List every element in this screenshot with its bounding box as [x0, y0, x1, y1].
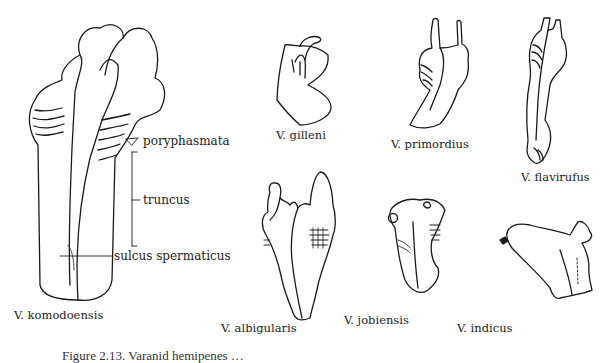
annotation-poryphasmata: poryphasmata [143, 135, 230, 147]
annotation-sulcus-spermaticus: sulcus spermaticus [114, 250, 231, 262]
label-jobiensis: V. jobiensis [344, 315, 409, 327]
gilleni-drawing [277, 37, 331, 125]
albigularis-drawing [262, 172, 335, 320]
label-primordius: V. primordius [391, 139, 469, 151]
label-flavirufus: V. flavirufus [521, 172, 590, 184]
figure-caption: Figure 2.13. Varanid hemipenes … [62, 349, 244, 362]
label-komodoensis: V. komodoensis [14, 310, 103, 322]
label-indicus: V. indicus [457, 323, 512, 335]
label-gilleni: V. gilleni [276, 130, 326, 142]
flavirufus-drawing [527, 18, 567, 163]
annotation-truncus: truncus [143, 194, 190, 206]
indicus-drawing [500, 222, 592, 299]
label-albigularis: V. albigularis [221, 323, 297, 335]
jobiensis-drawing [389, 199, 446, 292]
primordius-drawing [410, 19, 468, 128]
